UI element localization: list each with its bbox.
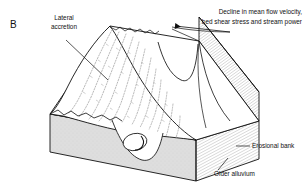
label-decline-line2: bed shear stress and stream power — [202, 18, 303, 26]
label-erosional-bank: Erosional bank — [252, 142, 295, 149]
figure-panel-b: B Lateral accretion Decline in mean flow… — [0, 0, 308, 195]
label-decline-line1: Decline in mean flow velocity, — [219, 8, 303, 16]
block-diagram-svg: B Lateral accretion Decline in mean flow… — [0, 0, 308, 195]
label-lateral-accretion-line1: Lateral — [54, 14, 74, 21]
label-older-alluvium: Older alluvium — [214, 170, 255, 177]
panel-letter: B — [10, 19, 17, 30]
label-lateral-accretion-line2: accretion — [51, 23, 77, 30]
